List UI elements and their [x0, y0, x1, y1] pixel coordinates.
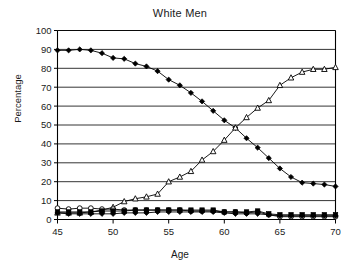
axis-ticks: [54, 31, 336, 224]
tick-labels: 0102030405060708090100455055606570: [36, 25, 341, 237]
marker-open-triangle-58: [199, 157, 205, 162]
marker-filled-diamond-70: [333, 184, 338, 189]
y-tick-label-90: 90: [41, 44, 52, 55]
marker-open-triangle-65: [277, 82, 283, 87]
chart-container: White Men Percentage 0102030405060708090…: [0, 0, 360, 271]
marker-open-triangle-70: [333, 64, 339, 69]
y-tick-label-80: 80: [41, 63, 52, 74]
gridlines: [58, 31, 336, 201]
marker-filled-diamond-52: [133, 61, 138, 66]
marker-filled-diamond-67: [300, 180, 305, 185]
y-tick-label-70: 70: [41, 82, 52, 93]
y-tick-label-20: 20: [41, 176, 52, 187]
y-tick-label-40: 40: [41, 138, 52, 149]
y-tick-label-10: 10: [41, 195, 52, 206]
x-tick-label-65: 65: [275, 226, 286, 237]
marker-open-triangle-66: [288, 75, 294, 80]
marker-filled-diamond-46: [66, 48, 71, 53]
marker-filled-diamond-69: [322, 182, 327, 187]
x-tick-label-45: 45: [52, 226, 63, 237]
x-axis-title: Age: [0, 249, 360, 260]
y-tick-label-0: 0: [46, 214, 51, 225]
marker-filled-diamond-48: [88, 48, 93, 53]
x-tick-label-60: 60: [219, 226, 230, 237]
marker-open-triangle-56: [177, 174, 183, 179]
marker-filled-diamond-51: [122, 56, 127, 61]
plot-area: 0102030405060708090100455055606570: [0, 0, 360, 271]
x-tick-label-50: 50: [108, 226, 119, 237]
marker-filled-diamond-49: [99, 51, 104, 56]
marker-filled-diamond-50: [111, 55, 116, 60]
y-tick-label-60: 60: [41, 101, 52, 112]
x-tick-label-55: 55: [163, 226, 174, 237]
marker-filled-diamond-45: [55, 48, 60, 53]
series-2-series-flat-open-circle: [55, 206, 338, 219]
y-tick-label-30: 30: [41, 157, 52, 168]
series-line-1: [58, 67, 336, 213]
marker-filled-diamond-47: [77, 47, 82, 52]
y-tick-label-50: 50: [41, 119, 52, 130]
y-tick-label-100: 100: [36, 25, 52, 36]
data-series: [55, 47, 339, 219]
x-tick-label-70: 70: [330, 226, 341, 237]
